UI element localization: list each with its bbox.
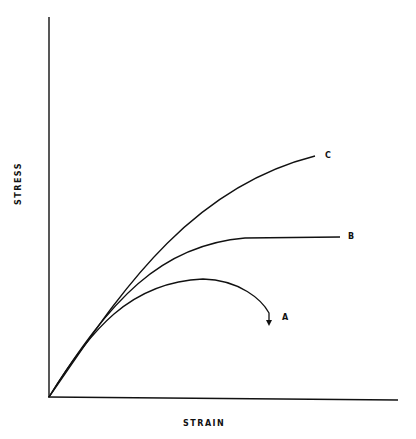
plot-area <box>0 0 416 439</box>
curve-c <box>49 156 315 397</box>
x-axis-label: STRAIN <box>183 419 225 428</box>
stress-strain-chart: STRESS STRAIN C B A <box>0 0 416 439</box>
curve-b-label: B <box>348 232 354 241</box>
curve-a-label: A <box>282 313 288 322</box>
y-axis-label: STRESS <box>14 162 23 205</box>
x-axis <box>48 397 398 400</box>
curve-c-label: C <box>325 151 331 160</box>
fracture-arrow-icon <box>266 320 272 326</box>
curve-b <box>49 237 340 397</box>
curve-a <box>49 279 269 397</box>
